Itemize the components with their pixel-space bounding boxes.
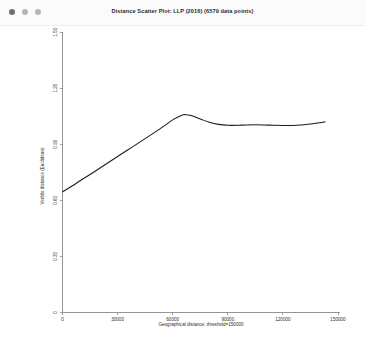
data-series-group bbox=[63, 115, 326, 192]
plot-axes bbox=[63, 32, 341, 313]
chart-canvas: 00.300.600.901.201.50 030000600009000012… bbox=[0, 26, 365, 345]
x-axis-title: Geographical distance: threshold=150000 bbox=[158, 322, 244, 327]
y-tick-label: 0.30 bbox=[53, 251, 58, 260]
x-tick-label: 150000 bbox=[330, 317, 346, 322]
y-tick-label: 0 bbox=[53, 311, 58, 314]
y-tick-label: 0.90 bbox=[53, 139, 58, 148]
x-tick-label: 30000 bbox=[111, 317, 124, 322]
window-titlebar: Distance Scatter Plot: LLP (2016) (6579 … bbox=[0, 0, 365, 26]
y-tick-label: 1.50 bbox=[53, 27, 58, 36]
y-tick-label: 1.20 bbox=[53, 83, 58, 92]
x-axis-ticks: 0300006000090000120000150000 bbox=[61, 313, 346, 322]
window-title: Distance Scatter Plot: LLP (2016) (6579 … bbox=[0, 7, 365, 15]
x-tick-label: 60000 bbox=[166, 317, 179, 322]
y-axis-ticks: 00.300.600.901.201.50 bbox=[53, 27, 63, 314]
x-tick-label: 120000 bbox=[275, 317, 291, 322]
trend-line bbox=[63, 115, 326, 192]
app-window: Distance Scatter Plot: LLP (2016) (6579 … bbox=[0, 0, 365, 345]
scatter-plot-figure: 00.300.600.901.201.50 030000600009000012… bbox=[0, 26, 365, 345]
x-tick-label: 90000 bbox=[221, 317, 234, 322]
y-tick-label: 0.60 bbox=[53, 195, 58, 204]
y-axis-title: Verbile distance (Euclidean) bbox=[40, 147, 45, 204]
x-tick-label: 0 bbox=[61, 317, 64, 322]
